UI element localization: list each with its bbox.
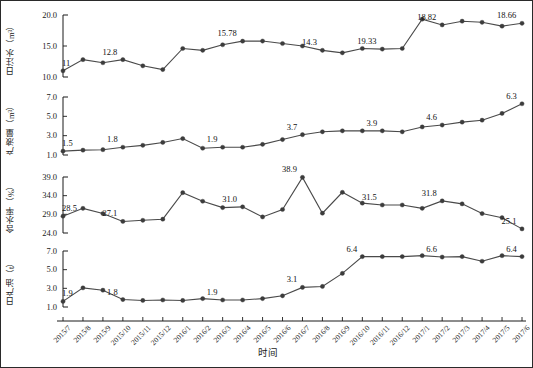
data-label: 38.9: [282, 165, 297, 174]
data-label: 19.33: [357, 37, 376, 46]
data-point: [61, 299, 65, 303]
y-tick-label: 1.0: [23, 151, 57, 160]
data-point: [221, 298, 225, 302]
data-point: [280, 294, 284, 298]
data-point: [320, 211, 324, 215]
data-point: [340, 190, 344, 194]
data-point: [121, 297, 125, 301]
data-label: 6.3: [506, 92, 517, 101]
data-point: [480, 211, 484, 215]
plot-canvas-daily-oil-production: [1, 1, 533, 368]
data-label: 18.82: [417, 13, 436, 22]
y-tick-label: 7.0: [23, 247, 57, 256]
y-axis-title-liquid-production: 产液量（m³）: [7, 93, 16, 163]
data-point: [320, 284, 324, 288]
data-label: 15.78: [218, 29, 237, 38]
data-label: 1.9: [62, 289, 73, 298]
data-point: [61, 69, 65, 73]
y-axis-title-daily-oil-production: 日产油（t）: [7, 247, 16, 315]
data-point: [460, 120, 464, 124]
data-point: [360, 129, 364, 133]
plot-canvas-daily-water-injection: [1, 1, 533, 368]
data-label: 1.5: [62, 139, 73, 148]
data-point: [440, 23, 444, 27]
plot-canvas-water-cut: [1, 1, 533, 368]
data-point: [480, 259, 484, 263]
data-label: 6.6: [426, 245, 437, 254]
data-point: [260, 297, 264, 301]
y-tick-label: 34.0: [23, 191, 57, 200]
data-point: [380, 129, 384, 133]
data-point: [460, 255, 464, 259]
data-label: 6.4: [506, 245, 517, 254]
data-point: [201, 146, 205, 150]
data-point: [181, 136, 185, 140]
data-point: [520, 102, 524, 106]
y-tick-label: 5.0: [23, 112, 57, 121]
data-point: [420, 125, 424, 129]
data-point: [280, 41, 284, 45]
y-tick-label: 10.0: [23, 73, 57, 82]
data-label: 11: [62, 59, 70, 68]
data-label: 3.9: [367, 119, 378, 128]
y-tick-label: 5.0: [23, 265, 57, 274]
data-point: [141, 143, 145, 147]
data-point: [380, 255, 384, 259]
data-point: [141, 298, 145, 302]
data-point: [81, 206, 85, 210]
data-point: [141, 218, 145, 222]
y-tick-label: 1.0: [23, 303, 57, 312]
data-point: [340, 129, 344, 133]
data-point: [380, 47, 384, 51]
data-point: [280, 207, 284, 211]
data-point: [241, 205, 245, 209]
data-point: [61, 149, 65, 153]
data-point: [420, 254, 424, 258]
data-point: [320, 48, 324, 52]
y-tick-label: 7.0: [23, 93, 57, 102]
data-point: [241, 145, 245, 149]
data-label: 1.9: [207, 135, 218, 144]
data-point: [400, 203, 404, 207]
data-label: 31.0: [222, 195, 237, 204]
data-point: [500, 254, 504, 258]
data-point: [480, 118, 484, 122]
data-point: [340, 51, 344, 55]
data-label: 3.1: [287, 275, 298, 284]
data-point: [181, 298, 185, 302]
data-point: [241, 298, 245, 302]
data-point: [280, 137, 284, 141]
data-label: 18.66: [497, 11, 516, 20]
data-point: [440, 255, 444, 259]
data-point: [221, 145, 225, 149]
data-label: 3.7: [287, 123, 298, 132]
y-axis-title-daily-water-injection: 日注水（m³）: [7, 11, 16, 85]
data-point: [420, 206, 424, 210]
data-label: 31.5: [362, 193, 377, 202]
data-point: [81, 286, 85, 290]
data-label: 4.6: [426, 113, 437, 122]
figure-container: 日注水（m³）20.015.010.01112.815.7814.319.331…: [0, 0, 533, 368]
data-label: 1.8: [107, 135, 118, 144]
y-tick-label: 3.0: [23, 284, 57, 293]
data-point: [440, 199, 444, 203]
data-point: [221, 206, 225, 210]
data-point: [81, 148, 85, 152]
y-tick-label: 29.0: [23, 210, 57, 219]
data-point: [181, 46, 185, 50]
data-point: [260, 39, 264, 43]
data-point: [480, 20, 484, 24]
series-line: [63, 177, 522, 229]
data-label: 1.9: [207, 288, 218, 297]
data-point: [520, 255, 524, 259]
data-point: [161, 67, 165, 71]
data-point: [201, 297, 205, 301]
y-tick-label: 24.0: [23, 229, 57, 238]
data-point: [400, 130, 404, 134]
data-point: [460, 202, 464, 206]
plot-canvas-liquid-production: [1, 1, 533, 368]
y-tick-label: 3.0: [23, 131, 57, 140]
data-point: [161, 217, 165, 221]
data-point: [360, 255, 364, 259]
data-point: [181, 191, 185, 195]
